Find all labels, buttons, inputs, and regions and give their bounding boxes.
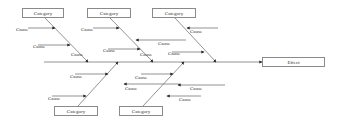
category-box: Category: [54, 106, 98, 116]
cause-label: Cause: [33, 44, 45, 49]
cause-label: Cause: [135, 75, 147, 80]
category-box: Category: [119, 106, 163, 116]
cause-label: Cause: [81, 27, 93, 32]
category-bone-3: [78, 62, 118, 106]
category-box: Category: [22, 8, 64, 18]
fishbone-diagram: CategoryCategoryCategoryCategoryCategory…: [0, 0, 342, 128]
effect-box: Effect: [262, 57, 325, 67]
category-box: Category: [87, 8, 131, 18]
cause-label: Cause: [125, 86, 137, 91]
cause-label: Cause: [103, 48, 115, 53]
cause-label: Cause: [140, 52, 152, 57]
cause-label: Cause: [48, 96, 60, 101]
cause-label: Cause: [179, 97, 191, 102]
cause-label: Cause: [190, 86, 202, 91]
cause-label: Cause: [168, 51, 180, 56]
cause-label: Cause: [70, 74, 82, 79]
category-box: Category: [152, 8, 196, 18]
cause-label: Cause: [158, 41, 170, 46]
cause-label: Cause: [16, 27, 28, 32]
cause-label: Cause: [71, 52, 83, 57]
cause-label: Cause: [190, 29, 202, 34]
